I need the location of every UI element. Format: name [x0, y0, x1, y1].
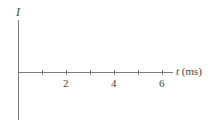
- y-axis-label: I: [16, 6, 20, 18]
- x-axis-label: t (ms): [176, 66, 202, 77]
- chart-axes: [0, 0, 210, 120]
- x-tick-label-6: 6: [159, 78, 165, 89]
- x-tick-label-4: 4: [111, 78, 117, 89]
- x-axis-label-var: t: [176, 65, 179, 77]
- x-tick-label-2: 2: [63, 78, 69, 89]
- x-axis-label-unit: (ms): [182, 65, 202, 77]
